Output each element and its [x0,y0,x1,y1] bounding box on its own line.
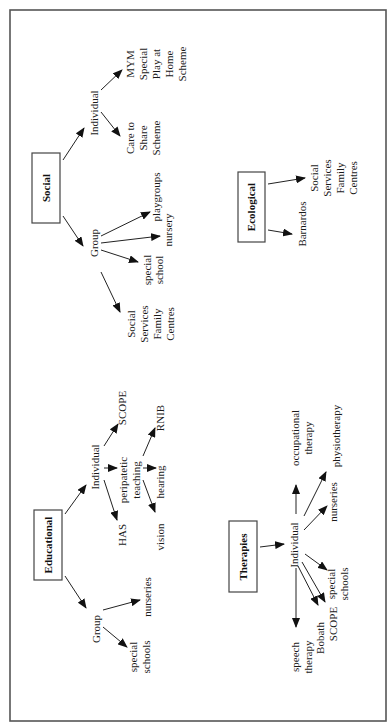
educational-vision: vision [154,523,166,550]
educational-nurseries: nurseries [141,577,153,617]
social-care-to-share: Care to Share Scheme [124,120,162,155]
ecological-title: Ecological [245,183,257,231]
arrow-educational-group [65,576,86,608]
svg-text:Social: Social [125,310,137,338]
svg-text:Centres: Centres [347,161,359,195]
arrow-group-playgroups [101,212,150,236]
therapies-physiotherapy: physiotherapy [330,404,342,467]
therapies-special-schools: special schools [325,568,350,601]
therapies-individual-label: Individual [288,522,300,567]
arrow-social-group [63,216,83,246]
social-group-label: Group [88,228,100,257]
social-individual-label: Individual [88,90,100,135]
social-special-school: special school [141,255,165,286]
therapies-speech-therapy: speech therapy [289,640,314,673]
therapies-section: Therapies Individual occupational therap… [229,404,350,673]
svg-text:Family: Family [334,162,346,194]
therapies-occupational-therapy: occupational therapy [289,410,314,466]
svg-text:schools: schools [338,568,350,601]
svg-text:Scheme: Scheme [176,46,188,81]
ecological-family-centres: Social Services Family Centres [308,159,359,196]
svg-text:speech: speech [289,642,301,672]
arrow-group-special-schools [103,627,127,647]
svg-text:Services: Services [138,305,150,342]
educational-peripatetic-teaching: peripatetic teaching [117,457,142,504]
arrow-group-nursery [101,236,160,243]
arrow-ecological-family-centres [268,178,305,184]
svg-text:Care to: Care to [124,121,136,154]
svg-text:Centres: Centres [164,307,176,341]
arrow-therapies-individual [260,544,284,547]
social-mym-scheme: MYM Special Play at Home Scheme [124,46,188,81]
svg-text:MYM: MYM [124,50,136,78]
arrow-individual-physiotherapy [304,472,326,516]
arrow-individual-has [104,480,117,520]
arrow-individual-mym [101,70,122,90]
svg-text:Special: Special [137,48,149,80]
svg-text:teaching: teaching [130,461,142,499]
therapies-title: Therapies [237,533,249,581]
svg-text:Play at: Play at [150,49,162,79]
educational-has: HAS [116,524,128,546]
arrow-group-family-centres [101,272,120,312]
educational-group-label: Group [90,614,102,643]
svg-text:occupational: occupational [289,410,301,466]
svg-text:Family: Family [151,308,163,340]
social-nursery: nursery [162,213,174,246]
arrow-individual-care [101,112,120,136]
arrow-social-individual [63,128,84,160]
educational-section: Educational Individual SCOPE HAS peripat… [34,391,166,674]
therapies-scope: SCOPE [327,607,339,642]
arrow-individual-scope [104,424,118,446]
svg-text:Scheme: Scheme [150,120,162,155]
arrow-ecological-barnardos [268,230,292,234]
educational-title: Educational [42,517,54,574]
ecological-section: Ecological Social Services Family Centre… [238,159,359,246]
arrow-peripatetic-rnib [143,428,155,456]
educational-individual-label: Individual [89,444,101,489]
svg-text:special: special [325,569,337,600]
service-diagram: Social Individual Group MYM Special Play… [0,0,391,728]
svg-text:Services: Services [321,159,333,196]
social-title: Social [40,174,52,202]
arrow-group-special-school [101,250,138,262]
svg-text:school: school [153,256,165,285]
arrow-group-nurseries [103,600,140,610]
svg-text:special: special [141,255,153,286]
social-playgroups: playgroups [150,173,162,222]
ecological-barnardos: Barnardos [296,201,308,246]
therapies-nurseries: nurseries [327,482,339,522]
social-section: Social Individual Group MYM Special Play… [32,46,188,342]
educational-rnib: RNIB [154,405,166,431]
svg-text:Social: Social [308,164,320,192]
svg-text:special: special [127,642,139,673]
arrow-educational-individual [65,485,86,514]
therapies-bobath: Bobath [314,622,326,654]
educational-scope: SCOPE [116,391,128,426]
social-family-centres: Social Services Family Centres [125,305,176,342]
svg-text:peripatetic: peripatetic [117,457,129,504]
svg-text:therapy: therapy [302,421,314,454]
arrow-individual-special-schools [305,554,327,570]
svg-text:schools: schools [140,641,152,674]
educational-special-schools: special schools [127,641,152,674]
svg-text:Share: Share [137,125,149,150]
svg-text:therapy: therapy [302,640,314,673]
educational-hearing: hearing [154,465,166,498]
svg-text:Home: Home [163,50,175,77]
